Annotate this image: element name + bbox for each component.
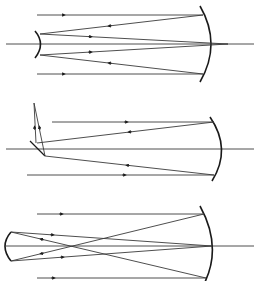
secondary-mirror-concave [5, 232, 11, 261]
ray-reflect-top [40, 15, 203, 34]
ray-focus-top [40, 34, 228, 44]
primary-mirror [200, 206, 212, 281]
panel-cassegrain [6, 6, 254, 82]
telescope-diagram [0, 0, 264, 281]
secondary-mirror-convex [35, 31, 41, 58]
panel-newtonian [6, 103, 254, 181]
panel-gregorian [5, 206, 254, 281]
ray-focus-bottom [40, 44, 228, 55]
ray-reflect-bottom [40, 55, 203, 74]
ray-reflect-top [37, 122, 214, 143]
